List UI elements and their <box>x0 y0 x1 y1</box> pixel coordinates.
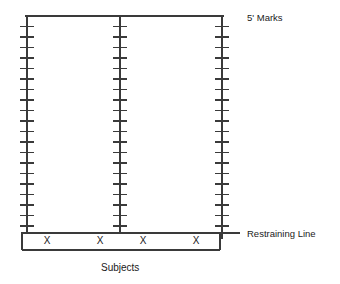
diagram-canvas: 5' Marks Restraining Line Subjects XXXX <box>0 0 340 284</box>
subject-x-mark: X <box>193 236 200 246</box>
subjects-label: Subjects <box>101 263 139 273</box>
range-diagram-svg <box>0 0 340 284</box>
subject-x-mark: X <box>97 236 104 246</box>
restraining-line-label: Restraining Line <box>247 229 316 239</box>
subject-x-mark: X <box>44 236 51 246</box>
five-foot-marks-label: 5' Marks <box>247 13 283 23</box>
subject-x-mark: X <box>140 236 147 246</box>
diagram-geometry <box>20 16 240 250</box>
